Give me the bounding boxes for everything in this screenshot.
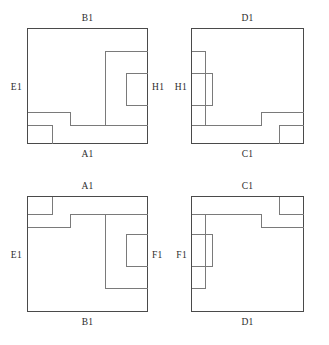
label-top-left-bottom: A1: [81, 149, 93, 159]
panel-top-left-inner-rect: [127, 74, 148, 106]
label-bottom-right-left: F1: [176, 250, 187, 260]
panel-bottom-right-inner-rect: [192, 235, 213, 267]
panel-bottom-right-step-right: [192, 215, 304, 228]
label-top-right-bottom: C1: [242, 149, 254, 159]
panel-bottom-left-inner-rect: [127, 235, 148, 267]
panel-bottom-right-square: [192, 197, 304, 312]
panel-top-right-square: [192, 29, 304, 144]
label-top-right-left: H1: [175, 82, 187, 92]
label-bottom-right-top: C1: [242, 181, 254, 191]
panel-top-right-step-right: [192, 113, 304, 126]
diagram-canvas: B1 A1 E1 H1 D1 C1 H1: [0, 0, 329, 345]
panel-top-left-step-left: [28, 113, 148, 126]
panel-top-right: D1 C1 H1: [175, 13, 304, 159]
label-bottom-right-bottom: D1: [241, 317, 253, 327]
panel-bottom-left-corner-box: [28, 197, 53, 215]
panel-bottom-right-corner-box: [280, 197, 304, 215]
label-top-right-top: D1: [241, 13, 253, 23]
panel-bottom-right: C1 D1 F1: [176, 181, 303, 327]
label-bottom-left-right: F1: [152, 250, 163, 260]
panel-bottom-right-step-left: [192, 215, 206, 289]
panel-top-left-square: [28, 29, 148, 144]
panel-top-left-corner-box: [28, 126, 53, 144]
label-bottom-left-left: E1: [11, 250, 22, 260]
label-top-left-left: E1: [11, 82, 22, 92]
panel-bottom-left-step-left: [28, 215, 148, 228]
label-top-left-top: B1: [82, 13, 94, 23]
panel-top-right-corner-box: [280, 126, 304, 144]
label-bottom-left-top: A1: [81, 181, 93, 191]
panel-bottom-left: A1 B1 E1 F1: [11, 181, 163, 327]
label-top-left-right: H1: [152, 82, 164, 92]
panel-top-right-step-left: [192, 52, 206, 126]
panel-top-right-inner-rect: [192, 74, 213, 106]
label-bottom-left-bottom: B1: [82, 317, 94, 327]
figure-root: B1 A1 E1 H1 D1 C1 H1: [0, 0, 329, 345]
panel-top-left: B1 A1 E1 H1: [11, 13, 164, 159]
panel-bottom-left-square: [28, 197, 148, 312]
